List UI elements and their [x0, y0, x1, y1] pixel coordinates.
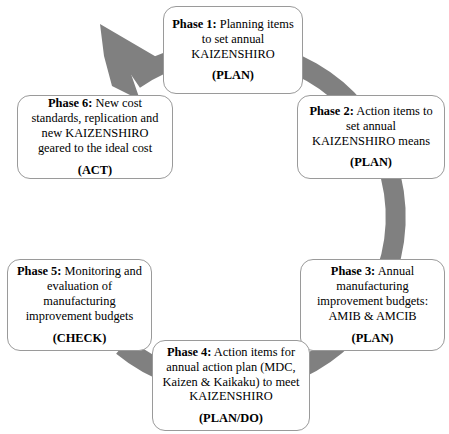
phase-6-tag: (ACT) — [24, 163, 166, 178]
phase-1-text: Phase 1: Planning items to set annual KA… — [170, 17, 296, 62]
phase-5-text: Phase 5: Monitoring and evaluation of ma… — [14, 264, 145, 324]
phase-3-tag: (PLAN) — [307, 331, 438, 346]
phase-box-2[interactable]: Phase 2: Action items to set annual KAIZ… — [297, 95, 445, 179]
phase-2-text: Phase 2: Action items to set annual KAIZ… — [304, 104, 438, 149]
phase-6-label: Phase 6: — [48, 96, 92, 110]
phase-5-label: Phase 5: — [17, 264, 61, 278]
phase-4-label: Phase 4: — [167, 345, 211, 359]
phase-4-tag: (PLAN/DO) — [159, 411, 303, 426]
phase-1-label: Phase 1: — [172, 17, 216, 31]
phase-3-text: Phase 3: Annual manufacturing improvemen… — [307, 264, 438, 324]
phase-3-label: Phase 3: — [331, 264, 375, 278]
phase-box-4[interactable]: Phase 4: Action items for annual action … — [152, 340, 310, 431]
phase-box-5[interactable]: Phase 5: Monitoring and evaluation of ma… — [7, 259, 152, 351]
phase-2-label: Phase 2: — [309, 104, 353, 118]
phase-6-text: Phase 6: New cost standards, replication… — [24, 96, 166, 156]
phase-5-tag: (CHECK) — [14, 331, 145, 346]
phase-box-3[interactable]: Phase 3: Annual manufacturing improvemen… — [300, 259, 445, 351]
phase-box-6[interactable]: Phase 6: New cost standards, replication… — [17, 95, 173, 179]
cycle-diagram: Phase 1: Planning items to set annual KA… — [0, 0, 449, 434]
phase-4-text: Phase 4: Action items for annual action … — [159, 345, 303, 405]
phase-box-1[interactable]: Phase 1: Planning items to set annual KA… — [163, 6, 303, 94]
cycle-arrow-head — [100, 24, 165, 100]
phase-1-tag: (PLAN) — [170, 68, 296, 83]
phase-2-tag: (PLAN) — [304, 155, 438, 170]
